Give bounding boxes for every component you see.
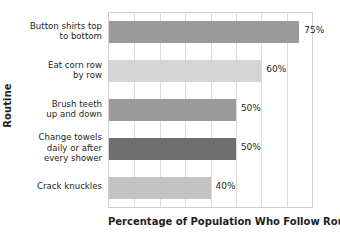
bar[interactable]: [109, 99, 236, 121]
category-axis-labels: Button shirts topto bottomEat corn rowby…: [14, 12, 106, 208]
category-label-line: Button shirts top: [10, 21, 102, 31]
category-label-line: up and down: [10, 109, 102, 119]
category-label: Change towelsdaily or afterevery shower: [10, 132, 102, 163]
category-label-line: daily or after: [10, 143, 102, 153]
category-label: Brush teethup and down: [10, 99, 102, 120]
bar-chart: Routine Button shirts topto bottomEat co…: [0, 0, 340, 240]
category-label-line: Eat corn row: [10, 60, 102, 70]
category-label: Button shirts topto bottom: [10, 21, 102, 42]
bar[interactable]: [109, 177, 211, 199]
x-axis-title: Percentage of Population Who Follow Rout…: [108, 216, 313, 227]
bar[interactable]: [109, 21, 299, 43]
category-label-line: to bottom: [10, 31, 102, 41]
category-label-line: Change towels: [10, 132, 102, 142]
category-label: Eat corn rowby row: [10, 60, 102, 81]
bars-layer: [109, 13, 312, 207]
category-label: Crack knuckles: [10, 181, 102, 191]
category-label-line: by row: [10, 70, 102, 80]
bar[interactable]: [109, 60, 261, 82]
plot-area: [108, 12, 313, 208]
category-label-line: Crack knuckles: [10, 181, 102, 191]
category-label-line: Brush teeth: [10, 99, 102, 109]
bar[interactable]: [109, 138, 236, 160]
category-label-line: every shower: [10, 153, 102, 163]
